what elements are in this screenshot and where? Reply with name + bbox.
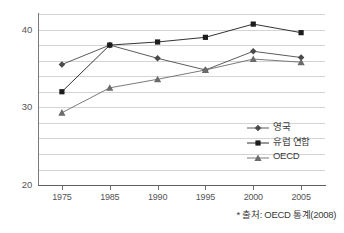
data-point-marker [58, 109, 65, 116]
data-point-marker [107, 42, 112, 47]
series-diamond [59, 42, 305, 73]
y-axis-tick-label: 30 [2, 101, 32, 112]
series-line [62, 45, 301, 70]
y-axis-tick-label: 20 [2, 179, 32, 190]
legend-marker-triangle-icon [246, 150, 270, 162]
legend-item-1[interactable]: 영국 [246, 118, 310, 133]
data-point-marker [154, 55, 161, 62]
legend-item-label: 유럽 연합 [273, 134, 310, 148]
data-point-marker [203, 35, 208, 40]
x-axis-tick-mark [110, 186, 111, 190]
legend-item-label: 영국 [273, 119, 290, 133]
data-point-marker [250, 55, 257, 62]
legend-item-2[interactable]: 유럽 연합 [246, 133, 310, 148]
x-axis-tick-mark [253, 186, 254, 190]
x-axis-tick-mark [301, 186, 302, 190]
x-axis-tick-label: 1975 [40, 192, 84, 202]
series-square [59, 22, 303, 95]
x-axis-tick-mark [158, 186, 159, 190]
x-axis-tick-label: 1990 [136, 192, 180, 202]
y-axis-tick-label: 40 [2, 24, 32, 35]
legend-item-label: OECD [273, 150, 299, 161]
data-point-marker [59, 61, 66, 68]
chart-legend: 영국유럽 연합OECD [246, 118, 310, 163]
data-point-marker [59, 89, 64, 94]
x-axis-tick-mark [205, 186, 206, 190]
series-line [62, 59, 301, 113]
data-point-marker [251, 22, 256, 27]
x-axis-tick-mark [62, 186, 63, 190]
x-axis-tick-label: 1985 [88, 192, 132, 202]
data-point-marker [298, 30, 303, 35]
x-axis-tick-label: 2000 [231, 192, 275, 202]
x-axis-line [38, 185, 326, 186]
legend-item-3[interactable]: OECD [246, 148, 310, 163]
x-axis-tick-label: 2005 [279, 192, 323, 202]
data-point-marker [255, 124, 262, 131]
series-line [62, 24, 301, 92]
legend-marker-square-icon [246, 135, 270, 147]
data-point-marker [250, 48, 257, 55]
source-note: * 출처: OECD 통계(2008) [0, 207, 336, 221]
line-chart: 403020 197519851990199520002005 영국유럽 연합O… [0, 0, 344, 233]
data-point-marker [255, 140, 260, 145]
data-point-marker [155, 39, 160, 44]
legend-marker-diamond-icon [246, 120, 270, 132]
x-axis-tick-label: 1995 [183, 192, 227, 202]
